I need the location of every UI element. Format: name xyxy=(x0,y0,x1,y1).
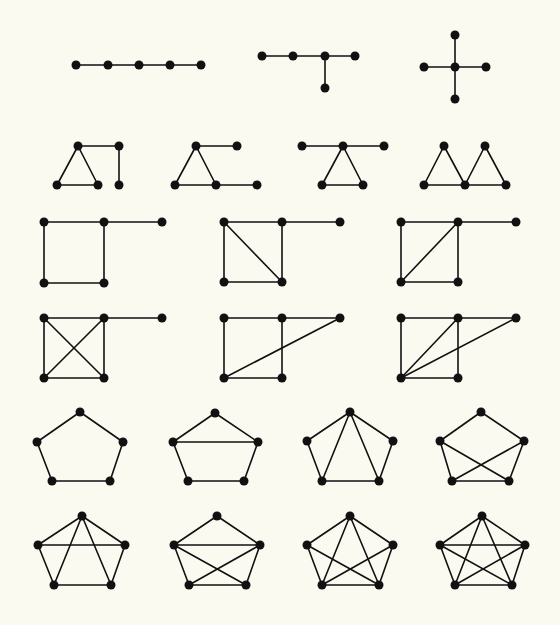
graph-vertex xyxy=(258,52,267,61)
graph-vertex xyxy=(100,279,109,288)
graph-vertex xyxy=(451,95,460,104)
graph-vertex xyxy=(40,218,49,227)
graph-vertex xyxy=(454,278,463,287)
graph-vertex xyxy=(318,581,327,590)
graph-vertex xyxy=(477,408,486,417)
graph-edge xyxy=(509,441,524,481)
graph-vertex xyxy=(74,142,83,151)
graph-edge xyxy=(110,442,123,481)
graph-vertex xyxy=(197,61,206,70)
graph-edge xyxy=(322,545,393,585)
graph-edge xyxy=(343,146,363,185)
graph-vertex xyxy=(420,181,429,190)
graph-vertex xyxy=(520,437,529,446)
graph-vertex xyxy=(78,512,87,521)
graph-vertex xyxy=(211,409,220,418)
graph-vertex xyxy=(289,52,298,61)
graph-vertex xyxy=(48,477,57,486)
graph-vertex xyxy=(318,477,327,486)
graph-edge xyxy=(37,412,80,442)
graph-edge xyxy=(217,516,260,545)
graph-vertex xyxy=(104,61,113,70)
graph-vertex xyxy=(397,374,406,383)
graph-vertex xyxy=(380,142,389,151)
graph-vertex xyxy=(184,477,193,486)
graph-cycle-c5 xyxy=(33,408,128,486)
graph-edge xyxy=(307,545,379,585)
graph-edge xyxy=(424,146,444,185)
graph-vertex xyxy=(454,218,463,227)
graph-edge xyxy=(244,442,258,481)
graph-vertex xyxy=(505,477,514,486)
graph-edge xyxy=(401,318,458,378)
graphs-layer xyxy=(33,31,530,590)
graph-vertex xyxy=(436,541,445,550)
graph-vertex xyxy=(440,142,449,151)
graph-vertex xyxy=(40,279,49,288)
graph-edge xyxy=(37,442,52,481)
graph-square-with-tail xyxy=(40,218,167,288)
graph-vertex xyxy=(115,142,124,151)
graph-vertex xyxy=(100,314,109,323)
graph-edge xyxy=(215,413,258,442)
graph-vertex xyxy=(321,84,330,93)
graph-vertex xyxy=(33,438,42,447)
graph-vertex xyxy=(451,31,460,40)
graph-vertex xyxy=(278,374,287,383)
graph-vertex xyxy=(76,408,85,417)
graph-vertex xyxy=(336,218,345,227)
graph-edge xyxy=(54,516,82,585)
graph-vertex xyxy=(321,52,330,61)
graph-vertex xyxy=(351,52,360,61)
graph-vertex xyxy=(72,61,81,70)
graph-vertex xyxy=(451,63,460,72)
graph-vertex xyxy=(53,181,62,190)
graph-k5-minus-edge xyxy=(303,512,398,590)
graph-edge xyxy=(174,545,246,585)
graph-vertex xyxy=(346,408,355,417)
graph-vertex xyxy=(185,581,194,590)
graph-edge xyxy=(440,545,512,585)
graph-vertex xyxy=(397,218,406,227)
graph-vertex xyxy=(240,477,249,486)
graph-vertex xyxy=(303,437,312,446)
graph-complete-k5 xyxy=(436,512,530,590)
graph-vertex xyxy=(318,181,327,190)
graph-vertex xyxy=(448,477,457,486)
graph-vertex xyxy=(253,181,262,190)
graph-vertex xyxy=(389,437,398,446)
graph-square-diag-tail-a xyxy=(220,218,345,287)
graph-path-p5 xyxy=(72,61,206,70)
graph-vertex xyxy=(254,438,263,447)
graph-edge xyxy=(196,146,216,185)
graph-vertex xyxy=(389,541,398,550)
graph-vertex xyxy=(242,581,251,590)
graph-vertex xyxy=(40,374,49,383)
graph-vertex xyxy=(303,541,312,550)
graph-edge xyxy=(38,545,54,585)
graph-edge xyxy=(485,146,506,185)
graph-vertex xyxy=(436,437,445,446)
graph-edge xyxy=(379,441,393,481)
graph-vertex xyxy=(220,374,229,383)
graph-c5-three-chords-b xyxy=(170,512,265,590)
graph-edge xyxy=(440,545,455,585)
graph-cricket xyxy=(298,142,389,190)
graph-vertex xyxy=(420,63,429,72)
graph-vertex xyxy=(278,218,287,227)
graph-vertex xyxy=(461,181,470,190)
graph-vertex xyxy=(278,314,287,323)
graph-vertex xyxy=(256,541,265,550)
graph-vertex xyxy=(336,314,345,323)
graph-vertex xyxy=(94,181,103,190)
graph-spider-t xyxy=(258,52,360,93)
graph-vertex xyxy=(278,278,287,287)
graph-edge xyxy=(111,545,125,585)
graph-edge xyxy=(465,146,485,185)
graph-edge xyxy=(481,412,524,441)
graph-vertex xyxy=(50,581,59,590)
graph-vertex xyxy=(192,142,201,151)
graph-vertex xyxy=(482,63,491,72)
graph-vertex xyxy=(158,314,167,323)
graph-square-diag-tail-b xyxy=(397,218,521,287)
